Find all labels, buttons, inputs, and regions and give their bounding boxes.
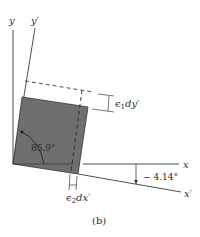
strain-element-diagram: y y′ x x′ 85.9° − 4.14° ϵ1dy′ ϵ2dx′ (b)	[0, 0, 200, 237]
dashed-top-edge	[25, 81, 93, 92]
strain2-label: ϵ2dx′	[66, 192, 91, 205]
x-prime-axis-label: x′	[184, 188, 193, 199]
deformed-element	[13, 97, 88, 174]
figure-caption: (b)	[92, 215, 106, 226]
strain1-tick-bottom	[92, 109, 114, 112]
strain1-label: ϵ1dy′	[115, 98, 140, 111]
rotation-angle-label: − 4.14°	[143, 172, 178, 182]
strain1-tick-top	[98, 94, 114, 96]
y-prime-axis-label: y′	[30, 15, 40, 26]
strain2-tick-left	[69, 174, 70, 190]
strain2-tick-right	[76, 176, 77, 190]
inner-angle-label: 85.9°	[31, 143, 56, 153]
x-axis-label: x	[183, 159, 189, 170]
strain1-dim-line	[108, 96, 109, 111]
diagram-svg: y y′ x x′ 85.9° − 4.14° ϵ1dy′ ϵ2dx′ (b)	[0, 0, 200, 237]
y-axis-label: y	[8, 15, 15, 26]
rotation-angle-arrowhead	[134, 180, 138, 184]
